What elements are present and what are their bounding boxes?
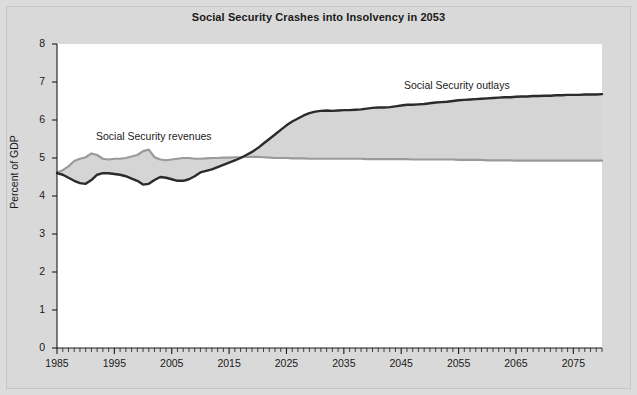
x-tick-label: 2045 <box>379 357 423 369</box>
y-tick-label: 4 <box>23 189 45 201</box>
x-tick-label: 2015 <box>207 357 251 369</box>
chart-svg <box>0 0 637 395</box>
x-tick-label: 1985 <box>35 357 79 369</box>
y-tick-label: 8 <box>23 37 45 49</box>
x-tick-label: 1995 <box>92 357 136 369</box>
y-tick-label: 6 <box>23 113 45 125</box>
x-tick-label: 2065 <box>494 357 538 369</box>
x-tick-label: 2005 <box>150 357 194 369</box>
y-tick-label: 3 <box>23 227 45 239</box>
x-tick-label: 2075 <box>551 357 595 369</box>
y-tick-label: 2 <box>23 265 45 277</box>
chart-page: Social Security Crashes into Insolvency … <box>0 0 637 395</box>
y-tick-label: 5 <box>23 151 45 163</box>
y-tick-label: 1 <box>23 303 45 315</box>
x-tick-label: 2035 <box>322 357 366 369</box>
y-axis-label: Percent of GDP <box>8 72 20 272</box>
series-annotation-revenues: Social Security revenues <box>96 130 212 142</box>
y-tick-label: 7 <box>23 75 45 87</box>
series-annotation-outlays: Social Security outlays <box>404 79 510 91</box>
x-tick-label: 2025 <box>264 357 308 369</box>
axis-layer <box>52 44 602 354</box>
x-tick-label: 2055 <box>437 357 481 369</box>
y-tick-label: 0 <box>23 341 45 353</box>
